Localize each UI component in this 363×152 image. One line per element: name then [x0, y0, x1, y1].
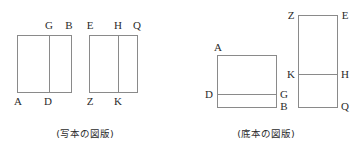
vertex-label-d-base-text-panel: D	[205, 89, 213, 100]
vertex-label-a-manuscript-panel: A	[14, 96, 22, 107]
caption-base-text-panel: (底本の図版)	[237, 128, 294, 140]
rect-ZEKHQ-base-outline	[299, 16, 338, 108]
vertex-label-q-base-text-panel: Q	[341, 101, 349, 112]
vertex-label-k-manuscript-panel: K	[114, 96, 122, 107]
rect-ZKHE-Q	[90, 36, 138, 93]
vertex-label-q-manuscript-panel: Q	[133, 20, 141, 31]
rect-ADGB-base	[218, 56, 277, 108]
rect-ADGB	[18, 36, 72, 93]
rect-ZKHE-Q-outline	[90, 36, 138, 93]
vertex-label-e-base-text-panel: E	[342, 10, 349, 21]
vertex-label-z-base-text-panel: Z	[288, 10, 295, 21]
vertex-label-a-base-text-panel: A	[214, 42, 222, 53]
vertex-label-g-manuscript-panel: G	[45, 20, 53, 31]
vertex-label-b-base-text-panel: B	[280, 101, 287, 112]
rect-ADGB-outline	[18, 36, 72, 93]
diagram-page: GBEHQADZKADGBZEKHQ (写本の図版)(底本の図版)	[0, 0, 363, 152]
caption-manuscript-panel: (写本の図版)	[56, 128, 113, 140]
vertex-label-g-base-text-panel: G	[280, 89, 288, 100]
vertex-label-b-manuscript-panel: B	[65, 20, 72, 31]
vertex-label-h-base-text-panel: H	[341, 69, 349, 80]
vertex-label-h-manuscript-panel: H	[114, 20, 122, 31]
vertex-label-e-manuscript-panel: E	[87, 20, 94, 31]
rect-ADGB-base-outline	[218, 56, 277, 108]
vertex-label-d-manuscript-panel: D	[44, 96, 52, 107]
vertex-label-z-manuscript-panel: Z	[87, 96, 94, 107]
figure-lines-svg	[0, 0, 363, 152]
vertex-label-k-base-text-panel: K	[287, 69, 295, 80]
rect-ZEKHQ-base	[299, 16, 338, 108]
